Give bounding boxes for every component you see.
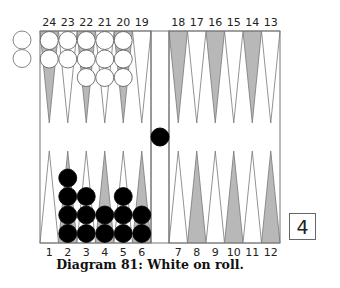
black-checker <box>133 206 151 224</box>
white-checker <box>77 69 95 87</box>
white-checker <box>114 32 132 50</box>
white-checker <box>114 69 132 87</box>
point-label-24: 24 <box>42 16 56 29</box>
point-8 <box>188 151 207 243</box>
point-12 <box>262 151 281 243</box>
diagram-caption: Diagram 81: White on roll. <box>0 257 340 272</box>
white-checker <box>59 32 77 50</box>
black-checker <box>114 225 132 243</box>
black-checker <box>59 206 77 224</box>
point-16 <box>206 31 225 123</box>
point-13 <box>262 31 281 123</box>
point-7 <box>169 151 188 243</box>
point-label-21: 21 <box>98 16 112 29</box>
point-label-16: 16 <box>208 16 222 29</box>
black-checker <box>59 188 77 206</box>
black-checker <box>77 225 95 243</box>
black-checker-on-bar <box>151 128 169 146</box>
checkers <box>40 32 169 243</box>
black-checker <box>114 206 132 224</box>
point-label-13: 13 <box>264 16 278 29</box>
point-label-17: 17 <box>190 16 204 29</box>
doubling-cube: 4 <box>289 213 316 240</box>
white-checker <box>77 50 95 68</box>
black-checker <box>96 206 114 224</box>
point-label-19: 19 <box>135 16 149 29</box>
point-9 <box>206 151 225 243</box>
black-checker <box>133 225 151 243</box>
white-checker-off <box>13 50 31 68</box>
backgammon-board: 242322212019181716151413 123456789101112 <box>0 0 340 288</box>
top-point-labels: 242322212019181716151413 <box>42 16 278 29</box>
point-1 <box>40 151 59 243</box>
white-checker <box>96 69 114 87</box>
point-14 <box>243 31 262 123</box>
black-checker <box>77 206 95 224</box>
white-checker <box>96 32 114 50</box>
white-checker-off <box>13 31 31 49</box>
black-checker <box>114 188 132 206</box>
point-label-22: 22 <box>79 16 93 29</box>
point-label-23: 23 <box>61 16 75 29</box>
point-label-20: 20 <box>116 16 130 29</box>
point-19 <box>133 31 152 123</box>
white-checker <box>77 32 95 50</box>
point-18 <box>169 31 188 123</box>
white-checker <box>40 50 58 68</box>
white-checker <box>59 50 77 68</box>
black-checker <box>59 169 77 187</box>
black-checker <box>96 225 114 243</box>
point-label-15: 15 <box>227 16 241 29</box>
white-checker <box>96 50 114 68</box>
point-10 <box>225 151 244 243</box>
point-label-18: 18 <box>171 16 185 29</box>
point-label-14: 14 <box>245 16 259 29</box>
white-checker <box>40 32 58 50</box>
point-17 <box>188 31 207 123</box>
point-15 <box>225 31 244 123</box>
black-checker <box>77 188 95 206</box>
white-checker <box>114 50 132 68</box>
right-board-frame <box>169 31 280 243</box>
point-11 <box>243 151 262 243</box>
borne-off-white-checkers <box>13 31 31 68</box>
black-checker <box>59 225 77 243</box>
